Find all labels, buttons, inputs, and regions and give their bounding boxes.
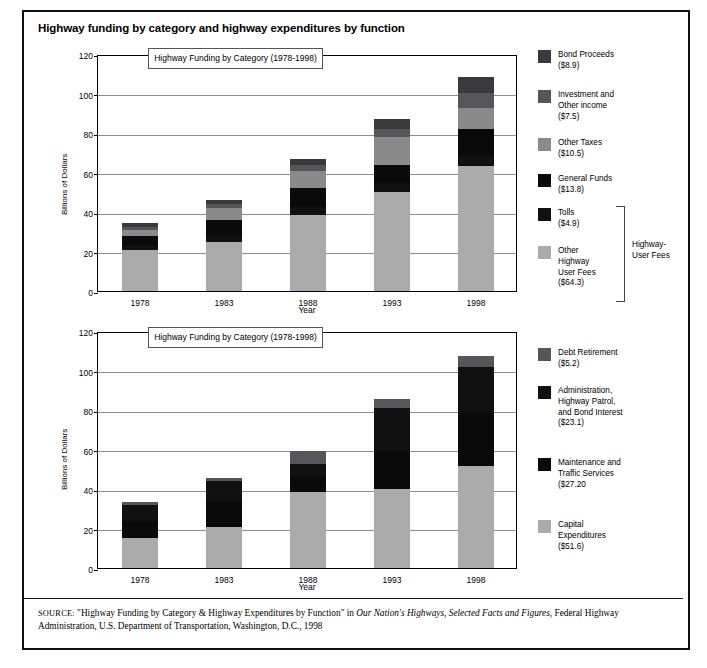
- bar-1993: [374, 399, 411, 568]
- legend-item-debt-retirement[interactable]: Debt Retirement ($5.2): [538, 348, 618, 370]
- source-note: SOURCE: "Highway Funding by Category & H…: [38, 607, 678, 634]
- bar-segment-1993-0: [374, 489, 411, 568]
- bar-segment-1988-3: [290, 451, 327, 464]
- gridline: [98, 372, 516, 373]
- legend-label: Capital Expenditures ($51.6): [558, 520, 606, 552]
- bar-segment-1978-3: [122, 502, 159, 504]
- figure-page: Highway funding by category and highway …: [0, 0, 707, 668]
- bar-segment-1983-0: [206, 527, 243, 568]
- y-tick-mark: [94, 412, 98, 413]
- legend-swatch-icon: [538, 348, 551, 361]
- y-tick-mark: [94, 570, 98, 571]
- legend-label: Maintenance and Traffic Services ($27.20: [558, 458, 621, 490]
- bar-segment-1978-1: [122, 521, 159, 539]
- source-title-italic: Our Nation's Highways, Selected Facts an…: [356, 608, 550, 618]
- y-tick-mark: [94, 530, 98, 531]
- y-tick-label: 80: [84, 407, 93, 417]
- bar-segment-1993-1: [374, 450, 411, 490]
- bar-segment-1998-2: [458, 367, 495, 413]
- bar-segment-1983-1: [206, 501, 243, 527]
- source-prefix: SOURCE:: [38, 609, 75, 618]
- chart-title-box-funding: Highway Funding by Category (1978-1998): [148, 48, 323, 69]
- bar-1988: [290, 451, 327, 568]
- bar-segment-1993-2: [374, 408, 411, 449]
- bar-1983: [206, 478, 243, 568]
- y-tick-mark: [94, 333, 98, 334]
- bar-segment-1998-3: [458, 356, 495, 366]
- bar-segment-1988-0: [290, 492, 327, 568]
- bar-segment-1978-0: [122, 538, 159, 568]
- chart-title-box-expenditures: Highway Funding by Category (1978-1998): [148, 327, 323, 348]
- y-tick-mark: [94, 451, 98, 452]
- legend-swatch-icon: [538, 520, 551, 533]
- bar-segment-1983-2: [206, 481, 243, 501]
- bar-segment-1993-3: [374, 399, 411, 408]
- y-tick-mark: [94, 372, 98, 373]
- legend-swatch-icon: [538, 386, 551, 399]
- legend-item-capital-expenditures[interactable]: Capital Expenditures ($51.6): [538, 520, 606, 552]
- bar-segment-1978-2: [122, 505, 159, 521]
- y-tick-label: 120: [79, 328, 93, 338]
- y-tick-label: 20: [84, 526, 93, 536]
- bar-1998: [458, 356, 495, 568]
- legend-label: Debt Retirement ($5.2): [558, 348, 618, 370]
- bar-1978: [122, 502, 159, 568]
- legend-expenditures: Debt Retirement ($5.2)Administration, Hi…: [538, 348, 698, 578]
- legend-item-administration-highway-patrol-and-bond-interest[interactable]: Administration, Highway Patrol, and Bond…: [538, 386, 623, 429]
- y-tick-label: 0: [88, 565, 93, 575]
- plot-area-expenditures: 02040608010012019781983198819931998: [97, 332, 517, 569]
- y-axis-label-expenditures: Billions of Dollars: [60, 429, 69, 490]
- bar-segment-1998-0: [458, 466, 495, 568]
- gridline: [98, 412, 516, 413]
- y-tick-label: 60: [84, 447, 93, 457]
- bar-segment-1998-1: [458, 412, 495, 466]
- y-tick-label: 40: [84, 486, 93, 496]
- y-tick-mark: [94, 491, 98, 492]
- source-text-1: "Highway Funding by Category & Highway E…: [75, 608, 357, 618]
- x-axis-label-expenditures: Year: [97, 582, 517, 592]
- legend-item-maintenance-and-traffic-services[interactable]: Maintenance and Traffic Services ($27.20: [538, 458, 621, 490]
- bar-segment-1983-3: [206, 478, 243, 481]
- y-tick-label: 100: [79, 368, 93, 378]
- legend-label: Administration, Highway Patrol, and Bond…: [558, 386, 623, 429]
- source-divider: [24, 598, 683, 599]
- bar-segment-1988-1: [290, 476, 327, 492]
- legend-swatch-icon: [538, 458, 551, 471]
- bar-segment-1988-2: [290, 464, 327, 476]
